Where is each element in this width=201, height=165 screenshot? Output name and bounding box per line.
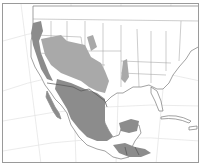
map-canvas <box>3 4 199 163</box>
range-map <box>2 3 199 163</box>
landmass <box>31 6 199 159</box>
